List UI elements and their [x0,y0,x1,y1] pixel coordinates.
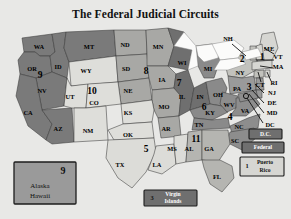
svg-text:1: 1 [245,162,248,169]
state-label-nd: ND [120,41,130,48]
state-label-ks: KS [124,109,133,116]
state-label-pa: PA [233,85,241,92]
svg-text:Puerto: Puerto [257,159,273,165]
inset-puerto-rico[interactable]: 1 Puerto Rico [240,157,284,176]
us-circuit-map: WAORIDMTWYNDSDNEMNIAMOARWIILINMIOHKYTNNY… [6,26,285,214]
state-label-md: MD [267,109,278,116]
svg-text:Rico: Rico [260,167,271,173]
state-label-az: AZ [54,125,63,132]
state-label-ky: KY [205,109,215,116]
state-label-wi: WI [178,59,187,66]
circuit-number-2: 2 [240,54,245,64]
state-label-fl: FL [213,173,221,180]
state-label-tx: TX [116,161,125,168]
state-nm[interactable] [74,106,108,142]
state-label-il: IL [179,93,186,100]
inset-virgin-islands[interactable]: 3 Virgin Islands [144,190,197,206]
state-label-oh: OH [213,91,223,98]
state-label-ma: MA [273,63,284,70]
state-label-nv: NV [37,87,47,94]
state-label-wv: WV [223,101,234,108]
state-label-nj: NJ [268,89,277,96]
state-label-sc: SC [231,137,240,144]
state-label-sd: SD [122,65,131,72]
circuit-number-8: 8 [144,66,149,76]
svg-text:Islands: Islands [164,198,182,204]
state-label-de: DE [268,99,277,106]
state-label-nc: NC [234,123,244,130]
circuit-number-6: 6 [202,102,207,112]
svg-text:9: 9 [61,165,66,176]
state-label-mt: MT [84,43,95,50]
inset-federal[interactable]: Federal [242,142,284,153]
state-label-ga: GA [204,145,214,152]
circuit-number-1: 1 [260,52,265,62]
svg-text:D.C.: D.C. [260,131,271,137]
state-label-id: ID [54,63,61,70]
circuit-number-4: 4 [228,112,233,122]
state-label-ri: RI [270,79,278,86]
svg-text:3: 3 [150,194,153,201]
circuit-number-7: 7 [177,78,182,88]
state-nd[interactable] [114,30,147,56]
state-label-al: AL [185,145,194,152]
state-label-la: LA [153,161,162,168]
state-label-nh: NH [223,35,233,42]
state-label-ut: UT [66,93,76,100]
state-label-tn: TN [195,121,204,128]
state-label-va: VA [241,107,250,114]
state-label-wa: WA [34,43,45,50]
circuit-number-9: 9 [38,70,43,80]
state-label-wy: WY [80,67,91,74]
page-title: The Federal Judicial Circuits [0,8,291,20]
state-label-ia: IA [158,76,165,83]
state-label-dc: DC [265,121,275,128]
inset-alaska-hawaii[interactable]: 9 Alaska Hawaii [14,162,76,204]
circuit-number-11: 11 [192,134,201,144]
svg-text:Federal: Federal [254,144,273,150]
map-svg: WAORIDMTWYNDSDNEMNIAMOARWIILINMIOHKYTNNY… [6,26,285,214]
map-figure: The Federal Judicial Circuits WAORIDMTWY… [0,0,291,219]
circuit-number-10: 10 [87,86,97,96]
state-label-ar: AR [161,125,171,132]
state-label-ca: CA [23,109,33,116]
state-label-nm: NM [83,127,94,134]
state-label-mi: MI [204,65,213,72]
state-label-ok: OK [123,131,133,138]
state-tx[interactable] [106,138,156,188]
state-label-co: CO [89,99,99,106]
state-label-or: OR [27,65,37,72]
state-label-mo: MO [158,103,169,110]
circuit-number-3: 3 [247,82,252,92]
state-label-ne: NE [124,87,133,94]
state-label-vt: VT [274,53,284,60]
svg-text:Alaska: Alaska [30,182,50,190]
svg-text:Virgin: Virgin [165,191,181,197]
state-label-ct: CT [256,81,266,88]
circuit-number-5: 5 [144,144,149,154]
state-label-mn: MN [153,43,164,50]
svg-text:Hawaii: Hawaii [30,192,50,200]
state-label-ny: NY [235,69,245,76]
state-label-ms: MS [167,145,177,152]
inset-dc[interactable]: D.C. [249,129,282,139]
state-label-in: IN [196,93,203,100]
